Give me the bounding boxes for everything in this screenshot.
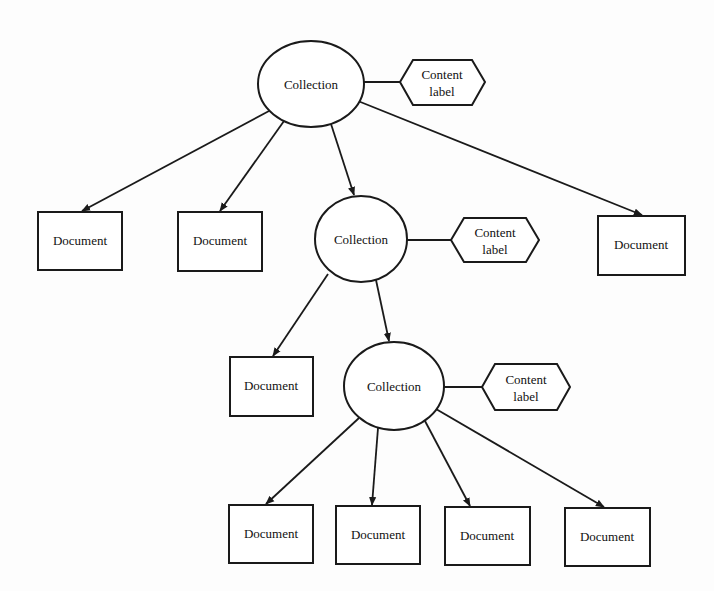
edges [82,82,642,507]
edge-c2-c3 [376,280,389,341]
content-label-line2: label [513,389,539,404]
document-label: Document [244,378,299,393]
document-label: Document [53,233,108,248]
collection-node-bottom[interactable]: Collection [344,342,444,430]
document-node-d8[interactable]: Document [565,508,650,566]
edge-c3-d5 [266,418,359,504]
collection-label: Collection [284,77,339,92]
document-node-d5[interactable]: Document [229,505,313,563]
content-label-line2: label [429,84,455,99]
content-label-line1: Content [505,372,547,387]
edge-c3-d6 [372,428,378,505]
content-label-top[interactable]: Content label [400,60,485,105]
content-label-line1: Content [474,225,516,240]
diagram-svg: Collection Content label Document Docume… [0,0,714,591]
edge-c1-d2 [220,121,284,211]
document-node-d4[interactable]: Document [230,357,313,416]
document-node-d3[interactable]: Document [598,216,685,275]
document-label: Document [580,529,635,544]
document-node-d7[interactable]: Document [445,507,530,565]
diagram-canvas: Collection Content label Document Docume… [0,0,714,591]
edge-c3-d7 [425,421,470,506]
content-label-line1: Content [421,67,463,82]
collection-label: Collection [367,379,422,394]
collection-label: Collection [334,232,389,247]
document-node-d6[interactable]: Document [336,506,420,564]
content-label-line2: label [482,242,508,257]
edge-c1-d3 [358,101,642,215]
collection-node-middle[interactable]: Collection [315,196,407,282]
document-label: Document [351,527,406,542]
edge-c1-c2 [331,124,354,195]
document-label: Document [460,528,515,543]
document-label: Document [614,237,669,252]
collection-node-top[interactable]: Collection [258,41,364,127]
document-label: Document [244,526,299,541]
document-node-d2[interactable]: Document [178,212,262,271]
content-label-middle[interactable]: Content label [451,218,539,262]
content-label-bottom[interactable]: Content label [482,364,570,410]
document-node-d1[interactable]: Document [38,212,122,270]
edge-c3-d8 [436,409,604,507]
edge-c2-d4 [273,274,328,356]
document-label: Document [193,233,248,248]
edge-c1-d1 [82,111,269,211]
